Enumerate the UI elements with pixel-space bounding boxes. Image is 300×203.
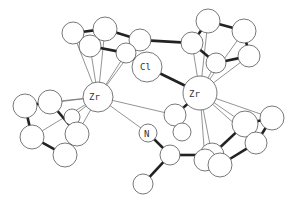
atom-b1	[196, 9, 220, 33]
zr-right-label: Zr	[189, 89, 200, 99]
molecular-structure-diagram: Cl Zr Zr Cl N	[0, 0, 300, 203]
atom-e2	[260, 106, 284, 130]
atom-e3	[245, 132, 267, 154]
atom-d2	[173, 123, 191, 141]
coordination-bond	[107, 99, 169, 113]
cl-top-label: Cl	[140, 62, 151, 72]
atom-a5	[116, 43, 136, 63]
atom-d3	[160, 145, 180, 165]
zr-left-label: Zr	[89, 92, 100, 102]
atom-d4	[133, 174, 153, 194]
atom-c1	[13, 94, 37, 118]
atom-b3	[181, 32, 203, 54]
atoms: Cl	[13, 9, 284, 194]
atom-c4	[65, 122, 89, 146]
atom-b5	[206, 53, 226, 73]
atom-a3	[79, 35, 101, 57]
atom-c3	[20, 125, 44, 149]
atom-b2	[232, 19, 256, 43]
n-label: N	[144, 129, 149, 139]
atom-b4	[238, 45, 260, 67]
coordination-bond	[210, 96, 266, 115]
bond	[147, 40, 186, 42]
atom-e5	[208, 153, 232, 177]
atom-c2	[38, 90, 62, 114]
atom-c5	[53, 143, 77, 167]
